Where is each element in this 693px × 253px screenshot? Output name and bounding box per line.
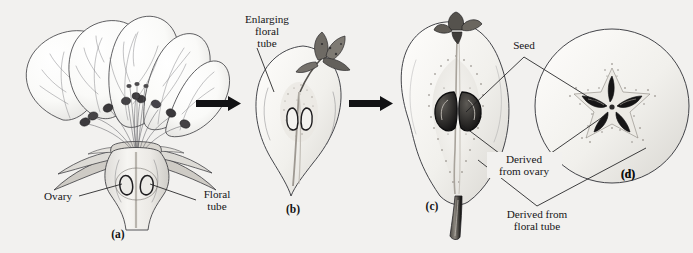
stigma	[126, 84, 131, 88]
withered-anther	[340, 43, 342, 45]
panel-marker-a: (a)	[111, 228, 125, 241]
withered-anther	[335, 53, 337, 55]
label-floral-tube-line1: Floral	[204, 188, 231, 200]
label-enlarging-line1: Enlarging	[245, 13, 289, 25]
anther	[132, 93, 140, 100]
label-enlarging-line2: floral	[255, 25, 279, 37]
label-derived-tube-line1-top: Derived from	[507, 208, 568, 220]
stigma	[134, 82, 139, 86]
panel-marker-b: (b)	[286, 203, 300, 216]
label-derived-ovary-line2-top: from ovary	[499, 165, 549, 177]
young-core-shade	[280, 82, 318, 142]
label-ovary: Ovary	[44, 190, 72, 202]
core-center	[609, 104, 614, 109]
label-seed-top: Seed	[513, 39, 535, 51]
panel-marker-d-top: (d)	[621, 168, 635, 181]
ovule-left	[287, 108, 298, 130]
withered-anther	[321, 43, 323, 45]
label-derived-ovary-line1-top: Derived	[506, 153, 542, 165]
stigma	[143, 84, 148, 88]
label-derived-tube-line2-top: floral tube	[514, 220, 560, 232]
ovule-right	[140, 176, 153, 195]
label-floral-tube-line2: tube	[207, 200, 226, 212]
ovule-left	[120, 176, 133, 195]
botanical-figure: Ovary Floral tube (a)	[0, 0, 693, 253]
panel-marker-c: (c)	[426, 200, 439, 213]
ovule-right	[301, 108, 312, 130]
withered-anther	[329, 47, 332, 50]
label-enlarging-line3: tube	[257, 37, 276, 49]
